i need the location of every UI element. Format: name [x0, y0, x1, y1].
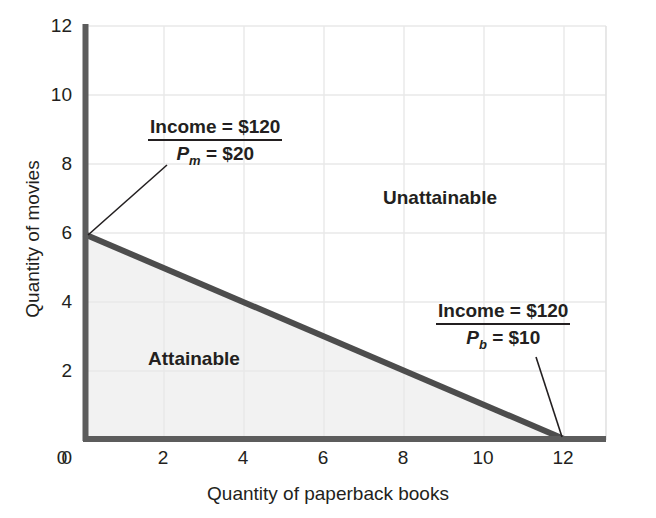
attainable-region-label: Attainable — [148, 348, 240, 370]
x-tick-4: 4 — [223, 447, 263, 469]
budget-constraint-figure: 12 10 8 6 4 2 0 0 2 4 6 8 10 12 Quantity… — [0, 0, 656, 518]
callout-movies-numerator: Income = $120 — [148, 116, 282, 141]
x-tick-12: 12 — [543, 447, 583, 469]
price-subscript-movies: m — [189, 153, 201, 168]
plot-area — [0, 0, 656, 518]
x-tick-2: 2 — [143, 447, 183, 469]
callout-movies-intercept: Income = $120 Pm = $20 — [148, 116, 282, 168]
y-tick-12: 12 — [32, 15, 72, 37]
unattainable-region-label: Unattainable — [383, 187, 497, 209]
callout-books-denominator: Pb = $10 — [436, 325, 570, 352]
price-symbol-books: P — [466, 327, 479, 348]
price-symbol-movies: P — [176, 143, 189, 164]
price-subscript-books: b — [479, 337, 487, 352]
callout-movies-denominator: Pm = $20 — [148, 141, 282, 168]
x-tick-6: 6 — [303, 447, 343, 469]
price-value-movies: = $20 — [201, 143, 254, 164]
callout-books-numerator: Income = $120 — [436, 300, 570, 325]
callout-books-intercept: Income = $120 Pb = $10 — [436, 300, 570, 352]
x-tick-10: 10 — [463, 447, 503, 469]
x-tick-8: 8 — [383, 447, 423, 469]
y-tick-10: 10 — [32, 84, 72, 106]
x-tick-0: 0 — [42, 447, 82, 469]
price-value-books: = $10 — [487, 327, 540, 348]
y-axis-title: Quantity of movies — [22, 109, 44, 369]
x-axis-title: Quantity of paperback books — [0, 483, 656, 505]
